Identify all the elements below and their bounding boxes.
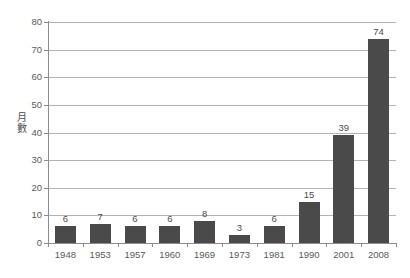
- bar-value-label: 15: [294, 190, 324, 200]
- y-axis-tick-label: 20: [12, 183, 42, 193]
- bar: [229, 235, 250, 243]
- bar-value-label: 7: [85, 212, 115, 222]
- x-axis-tick-mark: [187, 243, 188, 247]
- y-axis-tick-label-wrap: 10: [10, 210, 42, 220]
- bar-value-label: 6: [120, 214, 150, 224]
- x-axis-tick-mark: [292, 243, 293, 247]
- x-axis-tick-mark: [326, 243, 327, 247]
- x-axis-tick-mark: [396, 243, 397, 247]
- bar-value-label: 6: [259, 214, 289, 224]
- y-axis-tick-label: 0: [12, 238, 42, 248]
- x-axis-tick-mark: [48, 243, 49, 247]
- x-axis-tick-mark: [361, 243, 362, 247]
- bar-value-label: 6: [155, 214, 185, 224]
- bar: [194, 221, 215, 243]
- y-axis-tick-label-wrap: 30: [10, 155, 42, 165]
- bar-value-label: 74: [364, 27, 394, 37]
- bar: [264, 226, 285, 243]
- bar-value-label: 39: [329, 123, 359, 133]
- bar: [55, 226, 76, 243]
- x-axis-tick-mark: [118, 243, 119, 247]
- x-axis-tick-mark: [222, 243, 223, 247]
- y-axis-tick-label: 10: [12, 210, 42, 220]
- bar-value-label: 8: [190, 209, 220, 219]
- bar: [90, 224, 111, 243]
- x-axis-tick-mark: [83, 243, 84, 247]
- bar-value-label: 6: [50, 214, 80, 224]
- y-axis-tick-label: 50: [12, 100, 42, 110]
- x-axis-tick-label: 2008: [359, 250, 399, 260]
- y-axis-tick-label-wrap: 0: [10, 238, 42, 248]
- y-axis-tick-label: 30: [12, 155, 42, 165]
- y-axis-tick-label: 80: [12, 17, 42, 27]
- bar: [299, 202, 320, 243]
- x-axis-tick-mark: [257, 243, 258, 247]
- x-axis-tick-mark: [152, 243, 153, 247]
- y-axis-tick-label: 40: [12, 128, 42, 138]
- y-axis-tick-label-wrap: 50: [10, 100, 42, 110]
- bar: [159, 226, 180, 243]
- y-axis-tick-label-wrap: 20: [10, 183, 42, 193]
- y-axis-tick-label-wrap: 40: [10, 128, 42, 138]
- bar: [333, 135, 354, 243]
- y-axis-tick-label-wrap: 70: [10, 45, 42, 55]
- bar: [125, 226, 146, 243]
- y-axis-tick-label: 60: [12, 72, 42, 82]
- y-axis-tick-label: 70: [12, 45, 42, 55]
- y-axis-tick-label-wrap: 80: [10, 17, 42, 27]
- bar: [368, 39, 389, 243]
- bar-value-label: 3: [224, 223, 254, 233]
- bar-chart: 月 數 01020304050607080 194819531957196019…: [0, 0, 410, 278]
- y-axis-tick-label-wrap: 60: [10, 72, 42, 82]
